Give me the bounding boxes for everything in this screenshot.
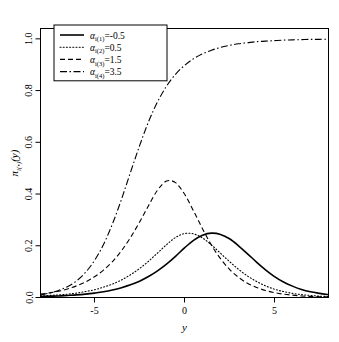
x-tick-label: 5 bbox=[272, 305, 277, 316]
x-tick-label: 0 bbox=[182, 305, 187, 316]
y-tick-label: 0.2 bbox=[24, 240, 35, 253]
y-axis-label: πi(•)(y) bbox=[8, 149, 23, 176]
y-tick-label: 0.6 bbox=[24, 136, 35, 149]
line-chart: -5050.00.20.40.60.81.0 yπi(•)(y) αi(1)=-… bbox=[0, 0, 339, 342]
y-tick-label: 0.4 bbox=[24, 188, 35, 201]
y-tick-label: 0.8 bbox=[24, 84, 35, 97]
legend-layer[interactable]: αi(1)=-0.5αi(2)=0.5αi(3)=1.5αi(4)=3.5 bbox=[54, 25, 167, 81]
series-line-3 bbox=[41, 180, 329, 297]
chart-root: -5050.00.20.40.60.81.0 yπi(•)(y) αi(1)=-… bbox=[0, 0, 339, 342]
x-axis-label: y bbox=[181, 321, 187, 333]
y-tick-label: 0.0 bbox=[24, 291, 35, 304]
series-line-1 bbox=[41, 233, 329, 296]
x-tick-label: -5 bbox=[90, 305, 98, 316]
svg-text:πi(•)(y): πi(•)(y) bbox=[8, 149, 23, 176]
y-tick-label: 1.0 bbox=[24, 33, 35, 46]
series-line-2 bbox=[41, 233, 329, 296]
